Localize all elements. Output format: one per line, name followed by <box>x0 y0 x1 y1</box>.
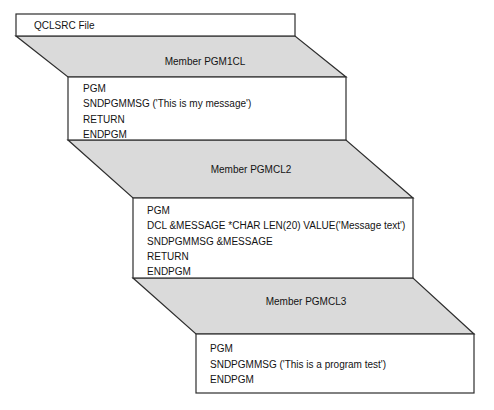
code-line: ENDPGM <box>147 266 191 277</box>
code-line: RETURN <box>83 114 125 125</box>
code-line: PGM <box>210 343 233 354</box>
member-label-pgmcl2: Member PGMCL2 <box>211 164 292 175</box>
member-label-pgmcl3: Member PGMCL3 <box>266 296 347 307</box>
code-line: PGM <box>83 83 106 94</box>
code-line: ENDPGM <box>83 129 127 140</box>
code-line: SNDPGMMSG &MESSAGE <box>147 236 273 247</box>
code-line: DCL &MESSAGE *CHAR LEN(20) VALUE('Messag… <box>147 220 405 231</box>
code-line: ENDPGM <box>210 374 254 385</box>
code-line: SNDPGMMSG ('This is a program test') <box>210 359 386 370</box>
qclsrc-file-label: QCLSRC File <box>34 20 95 31</box>
member-label-pgm1cl: Member PGM1CL <box>165 56 246 67</box>
qclsrc-members-stairstep-diagram: QCLSRC File Member PGM1CL Member PGMCL2 … <box>0 0 494 410</box>
code-line: RETURN <box>147 251 189 262</box>
code-line: PGM <box>147 205 170 216</box>
code-line: SNDPGMMSG ('This is my message') <box>83 98 251 109</box>
